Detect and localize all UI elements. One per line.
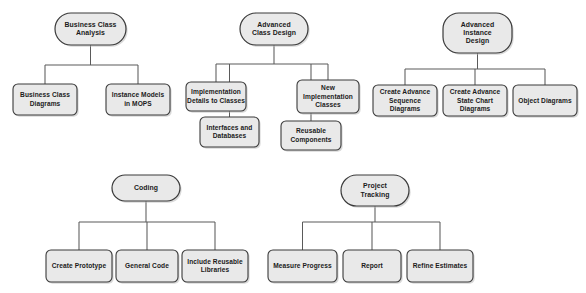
node-label: Report (361, 262, 383, 270)
node-create-prototype[interactable]: Create Prototype (46, 250, 114, 284)
node-reusable-components[interactable]: ReusableComponents (281, 121, 343, 152)
node-label-line: Create Advance (380, 88, 431, 95)
node-label-line: Sequence (389, 96, 421, 104)
node-label-line: Advanced (257, 21, 291, 28)
node-general-code[interactable]: General Code (116, 250, 180, 284)
group-advanced-class-design: AdvancedClass DesignImplementationDetail… (186, 13, 361, 152)
node-label-line: Refine Estimates (413, 262, 468, 269)
node-root-project-tracking[interactable]: ProjectTracking (341, 175, 411, 208)
node-label: ReusableComponents (290, 127, 331, 143)
node-label: Object Diagrams (518, 96, 572, 104)
node-label-line: Databases (213, 132, 247, 139)
node-refine-estimates[interactable]: Refine Estimates (407, 250, 475, 284)
node-label-line: State Chart (457, 96, 494, 103)
node-label: Interfaces andDatabases (207, 124, 253, 139)
node-label: Refine Estimates (413, 262, 468, 269)
node-report[interactable]: Report (343, 250, 403, 284)
diagram-canvas: Business ClassAnalysisBusiness ClassDiag… (0, 0, 586, 293)
node-label-line: Measure Progress (273, 262, 332, 270)
node-label-line: in MOPS (124, 99, 152, 106)
connectors (79, 201, 215, 250)
node-label-line: Classes (315, 100, 341, 107)
node-label-line: Object Diagrams (518, 96, 572, 104)
node-label-line: Coding (134, 184, 158, 192)
node-label-line: Project (363, 182, 388, 190)
node-root-advanced-class-design[interactable]: AdvancedClass Design (240, 13, 310, 47)
node-label: Create Prototype (52, 262, 107, 270)
node-label: AdvancedClass Design (252, 21, 296, 37)
node-root-coding[interactable]: Coding (112, 175, 182, 203)
node-label-line: Instance (463, 29, 492, 36)
node-label-line: Design (466, 37, 489, 45)
group-advanced-instance-design: AdvancedInstanceDesignCreate AdvanceSequ… (373, 13, 579, 118)
node-include-reusable-libraries[interactable]: Include ReusableLibraries (182, 250, 250, 284)
node-measure-progress[interactable]: Measure Progress (268, 250, 339, 284)
node-label: Measure Progress (273, 262, 332, 270)
node-label: General Code (125, 262, 169, 269)
work-breakdown-diagram: Business ClassAnalysisBusiness ClassDiag… (0, 0, 586, 293)
node-label-line: Implementation (303, 92, 353, 100)
node-label-line: Create Advance (450, 88, 501, 95)
node-label-line: Business Class (64, 21, 116, 28)
node-label-line: Tracking (361, 190, 390, 198)
node-object-diagrams[interactable]: Object Diagrams (513, 85, 579, 118)
node-business-class-diagrams[interactable]: Business ClassDiagrams (13, 84, 79, 117)
node-create-advance-sequence-diagrams[interactable]: Create AdvanceSequenceDiagrams (373, 85, 439, 118)
node-label-line: Class Design (252, 29, 296, 37)
group-coding: CodingCreate PrototypeGeneral CodeInclud… (46, 175, 250, 284)
node-root-advanced-instance-design[interactable]: AdvancedInstanceDesign (443, 13, 514, 55)
node-label-line: Diagrams (460, 104, 491, 112)
node-label-line: Analysis (76, 29, 105, 37)
node-label-line: Report (361, 262, 383, 270)
node-label-line: Advanced (461, 21, 495, 28)
node-label-line: Create Prototype (52, 262, 107, 270)
connectors (405, 53, 545, 85)
group-project-tracking: ProjectTrackingMeasure ProgressReportRef… (268, 175, 475, 284)
node-label-line: Details to Classes (187, 96, 245, 103)
node-interfaces-and-databases[interactable]: Interfaces andDatabases (200, 117, 261, 149)
node-root-business-class-analysis[interactable]: Business ClassAnalysis (55, 13, 128, 47)
node-instance-models-in-mops[interactable]: Instance Modelsin MOPS (106, 84, 172, 117)
node-label-line: Components (290, 135, 331, 143)
node-label-line: New (321, 84, 336, 91)
connectors (45, 45, 138, 84)
node-label: ImplementationDetails to Classes (187, 88, 245, 103)
node-label: ProjectTracking (361, 182, 390, 198)
node-label-line: Interfaces and (207, 124, 253, 131)
node-label-line: Instance Models (112, 91, 165, 98)
node-label-line: Diagrams (390, 104, 421, 112)
node-label-line: Implementation (191, 88, 241, 96)
node-label: Coding (134, 184, 158, 192)
node-new-implementation-classes[interactable]: NewImplementationClasses (297, 80, 361, 115)
node-label-line: Reusable (296, 127, 326, 134)
node-label-line: Libraries (201, 266, 230, 273)
group-business-class-analysis: Business ClassAnalysisBusiness ClassDiag… (13, 13, 172, 117)
node-label-line: Diagrams (30, 99, 61, 107)
node-create-advance-state-chart-diagrams[interactable]: Create AdvanceState ChartDiagrams (443, 85, 509, 118)
node-implementation-details-to-classes[interactable]: ImplementationDetails to Classes (186, 82, 248, 113)
connectors (303, 206, 441, 250)
node-label-line: Include Reusable (187, 258, 243, 265)
node-label-line: Business Class (20, 91, 70, 98)
node-label-line: General Code (125, 262, 169, 269)
